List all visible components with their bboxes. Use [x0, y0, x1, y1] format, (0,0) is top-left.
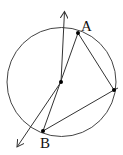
segment-AC	[78, 33, 114, 90]
point-C	[112, 88, 116, 92]
line-AB-extended-to-B	[17, 82, 61, 147]
point-B	[41, 129, 45, 133]
label-B: B	[40, 135, 50, 151]
point-A	[76, 31, 80, 35]
label-A: A	[81, 18, 92, 34]
point-center	[59, 80, 63, 84]
segment-CB	[43, 90, 114, 131]
geometry-diagram: A B	[0, 0, 123, 155]
